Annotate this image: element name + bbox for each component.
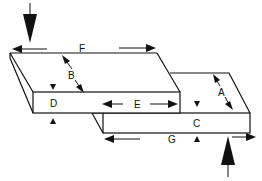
lap-joint-diagram: F B D E C A G xyxy=(0,0,262,181)
bottom-force-arrow-icon xyxy=(221,136,235,177)
label-c: C xyxy=(193,118,200,129)
dimension-g: G xyxy=(104,133,256,145)
top-force-arrow-icon xyxy=(23,3,37,43)
dimension-c: C xyxy=(193,101,200,142)
label-d: D xyxy=(50,98,57,109)
label-b: B xyxy=(68,70,75,81)
label-a: A xyxy=(218,87,225,98)
label-e: E xyxy=(134,99,141,110)
label-g: G xyxy=(168,134,176,145)
dimension-f: F xyxy=(12,43,156,54)
label-f: F xyxy=(79,43,85,54)
dimension-a: A xyxy=(213,74,233,110)
